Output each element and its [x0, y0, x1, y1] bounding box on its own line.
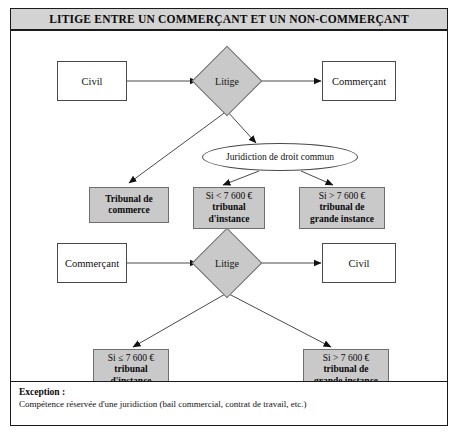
node-litige-bottom-label: Litige [192, 228, 262, 298]
figure-page: LITIGE ENTRE UN COMMERÇANT ET UN NON-COM… [0, 0, 458, 435]
tribunal-commerce-line-1: Tribunal de [105, 194, 153, 205]
tribunal-instance-bottom-line-2: tribunal [114, 364, 147, 375]
node-civil-top[interactable]: Civil [57, 61, 127, 101]
connector-juridiction-to-grande-instance [301, 171, 333, 185]
node-commercant-top-label: Commerçant [332, 76, 386, 87]
node-juridiction-droit-commun[interactable]: Juridiction de droit commun [202, 143, 358, 171]
node-civil-bottom-label: Civil [348, 258, 369, 269]
tribunal-commerce-line-2: commerce [108, 205, 150, 216]
connector-litige-to-instance-bottom [133, 293, 227, 347]
exception-note: Exception : Compétence réservée d'une ju… [11, 381, 447, 425]
node-tribunal-instance-top[interactable]: Si < 7 600 € tribunal d'instance [193, 187, 265, 229]
tribunal-instance-top-line-2: tribunal [212, 202, 245, 213]
tribunal-instance-top-line-1: Si < 7 600 € [206, 191, 253, 202]
node-juridiction-label: Juridiction de droit commun [226, 152, 334, 162]
tribunal-instance-bottom-line-1: Si ≤ 7 600 € [108, 353, 154, 364]
node-civil-top-label: Civil [81, 76, 102, 87]
connector-juridiction-to-instance [223, 171, 259, 185]
tribunal-grande-instance-top-line-1: Si > 7 600 € [319, 191, 366, 202]
exception-text: Compétence réservée d'une juridiction (b… [19, 399, 439, 409]
figure-title: LITIGE ENTRE UN COMMERÇANT ET UN NON-COM… [49, 13, 409, 25]
node-commercant-bottom[interactable]: Commerçant [57, 243, 127, 283]
tribunal-grande-instance-top-line-3: grande instance [310, 214, 374, 225]
figure-title-band: LITIGE ENTRE UN COMMERÇANT ET UN NON-COM… [11, 9, 447, 31]
figure-frame: LITIGE ENTRE UN COMMERÇANT ET UN NON-COM… [10, 8, 448, 426]
tribunal-instance-top-line-3: d'instance [208, 214, 249, 225]
node-litige-top[interactable]: Litige [192, 46, 262, 116]
tribunal-grande-instance-bottom-line-1: Si > 7 600 € [323, 353, 370, 364]
node-commercant-bottom-label: Commerçant [65, 258, 119, 269]
exception-label: Exception : [19, 387, 439, 397]
tribunal-grande-instance-bottom-line-2: tribunal de [323, 364, 368, 375]
connector-litige-to-grande-instance-bottom [227, 293, 331, 347]
node-commercant-top[interactable]: Commerçant [322, 61, 396, 101]
diagram-canvas: Civil Litige Commerçant Juridiction de d… [11, 31, 447, 399]
node-litige-bottom[interactable]: Litige [192, 228, 262, 298]
node-tribunal-grande-instance-top[interactable]: Si > 7 600 € tribunal de grande instance [299, 187, 385, 229]
node-litige-top-label: Litige [192, 46, 262, 116]
tribunal-grande-instance-top-line-2: tribunal de [319, 202, 364, 213]
connector-litige-to-tribunal-commerce [129, 111, 227, 183]
node-civil-bottom[interactable]: Civil [322, 243, 396, 283]
node-tribunal-de-commerce[interactable]: Tribunal de commerce [89, 187, 169, 223]
